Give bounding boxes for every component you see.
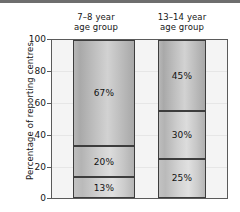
group-label-line-1: 7–8 year bbox=[58, 12, 134, 22]
group-label-13-14-year: 13–14 year age group bbox=[142, 12, 222, 32]
y-tick-label-0: 0 bbox=[16, 193, 46, 203]
bar-segment-middle[interactable]: 30% bbox=[158, 111, 206, 158]
bar-7-8-year[interactable]: 13% 20% 67% bbox=[73, 40, 135, 198]
group-label-line-2: age group bbox=[142, 22, 222, 32]
y-tick-label-20: 20 bbox=[16, 162, 46, 172]
plot-area: 13% 20% 67% 25% 30% 45% bbox=[51, 39, 228, 199]
bar-segment-label: 20% bbox=[94, 157, 115, 167]
y-tick-label-80: 80 bbox=[16, 66, 46, 76]
bar-segment-bottom[interactable]: 13% bbox=[73, 177, 135, 198]
group-label-line-1: 13–14 year bbox=[142, 12, 222, 22]
bar-segment-label: 25% bbox=[172, 173, 193, 183]
page-edge-strip bbox=[0, 0, 240, 3]
bar-13-14-year[interactable]: 25% 30% 45% bbox=[158, 40, 206, 198]
group-label-line-2: age group bbox=[58, 22, 134, 32]
bar-segment-label: 13% bbox=[94, 183, 115, 193]
bar-segment-bottom[interactable]: 25% bbox=[158, 159, 206, 199]
y-tick-label-60: 60 bbox=[16, 98, 46, 108]
bar-segment-top[interactable]: 67% bbox=[73, 40, 135, 146]
y-tick-label-100: 100 bbox=[16, 34, 46, 44]
group-label-7-8-year: 7–8 year age group bbox=[58, 12, 134, 32]
bar-segment-label: 30% bbox=[172, 130, 193, 140]
bar-segment-label: 45% bbox=[172, 71, 193, 81]
bar-segment-label: 67% bbox=[94, 88, 115, 98]
stacked-bar-chart: 7–8 year age group 13–14 year age group … bbox=[0, 0, 240, 212]
y-tick-label-40: 40 bbox=[16, 130, 46, 140]
bar-segment-middle[interactable]: 20% bbox=[73, 146, 135, 178]
bar-segment-top[interactable]: 45% bbox=[158, 40, 206, 111]
